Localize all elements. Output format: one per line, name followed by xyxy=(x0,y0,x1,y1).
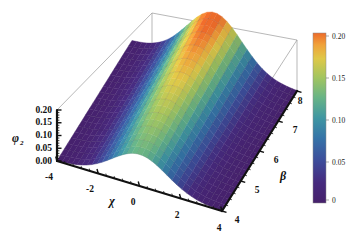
z-tick-label: 0.20 xyxy=(35,105,52,115)
z-axis-label-subscript: 2 xyxy=(19,139,24,147)
x-tick-label: 2 xyxy=(175,210,180,220)
colorbar-tick-label: 0.10 xyxy=(332,116,345,125)
x-axis-label: χ xyxy=(107,194,115,208)
colorbar-tick-label: 0.20 xyxy=(332,32,345,41)
colorbar-tick-label: 0.15 xyxy=(332,74,345,83)
colorbar-tick-label: 0.05 xyxy=(332,158,345,167)
y-tick-label: 5 xyxy=(255,185,260,195)
z-tick-label: 0.00 xyxy=(35,156,52,166)
figure-root: -4 -2 0 2 4 4 5 6 7 8 0.00 0.05 0.10 0.1… xyxy=(0,0,361,244)
y-tick-label: 8 xyxy=(298,96,303,106)
y-tick-label: 7 xyxy=(293,125,298,135)
colorbar: 0.20 0.15 0.10 0.05 0 xyxy=(313,32,345,205)
surface-plot-canvas: -4 -2 0 2 4 4 5 6 7 8 0.00 0.05 0.10 0.1… xyxy=(0,0,361,244)
z-axis-label-symbol: φ xyxy=(12,131,19,145)
z-tick-label: 0.05 xyxy=(35,143,52,153)
x-tick-label: 0 xyxy=(131,197,136,207)
z-axis-label: φ 2 xyxy=(12,131,24,147)
y-tick-label: 4 xyxy=(235,215,240,225)
y-axis-label: β xyxy=(279,169,287,183)
surface-mesh xyxy=(57,12,297,211)
x-tick-label: 4 xyxy=(217,223,222,233)
colorbar-tick-label: 0 xyxy=(332,196,336,205)
z-tick-label: 0.10 xyxy=(35,130,52,140)
z-tick-label: 0.15 xyxy=(35,117,52,127)
x-tick-label: -2 xyxy=(86,184,94,194)
colorbar-ticks xyxy=(326,36,329,200)
colorbar-gradient xyxy=(313,33,326,203)
x-tick-label: -4 xyxy=(45,172,53,182)
z-axis-tick-labels: 0.00 0.05 0.10 0.15 0.20 xyxy=(35,105,52,166)
y-tick-label: 6 xyxy=(274,155,279,165)
